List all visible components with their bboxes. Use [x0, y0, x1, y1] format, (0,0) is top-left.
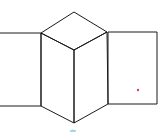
- bottom-mark: [70, 130, 76, 133]
- left-parallelogram-face: [41, 33, 74, 123]
- marker-dot: [137, 89, 139, 91]
- top-rhombus-face: [41, 12, 107, 50]
- left-rectangle: [0, 33, 41, 106]
- right-rectangle: [108, 32, 157, 104]
- right-parallelogram-face: [74, 32, 108, 123]
- geometry-diagram: [0, 0, 168, 132]
